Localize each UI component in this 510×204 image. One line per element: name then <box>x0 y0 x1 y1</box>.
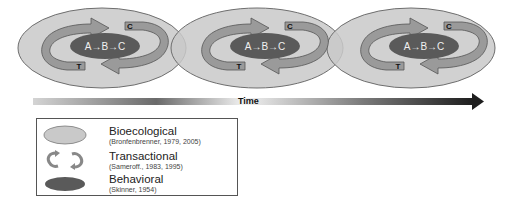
legend-title: Bioecological <box>109 125 201 137</box>
behavior-label: A→B→C <box>245 41 286 52</box>
ecological-diagram: A→B→C C T A→B→C C T A→B→C C T <box>0 0 510 110</box>
circular-arrows-icon <box>43 150 87 170</box>
legend-item-behavioral: Behavioral (Skinner, 1954) <box>37 173 237 197</box>
legend: Bioecological (Bronfenbrenner, 1979, 200… <box>36 118 238 196</box>
tag-c: C <box>446 22 452 31</box>
tag-c: C <box>287 22 293 31</box>
behavior-label: A→B→C <box>404 41 445 52</box>
legend-citation: (Sameroff., 1983, 1995) <box>109 162 183 171</box>
tag-c: C <box>127 22 133 31</box>
light-gray-ellipse-icon <box>43 125 87 145</box>
behavior-label: A→B→C <box>85 41 126 52</box>
legend-citation: (Bronfenbrenner, 1979, 2005) <box>109 137 201 146</box>
time-axis-label: Time <box>238 96 259 106</box>
legend-title: Behavioral <box>109 173 163 185</box>
tag-t: T <box>396 62 401 71</box>
arrowhead-icon <box>472 93 484 110</box>
tag-t: T <box>237 62 242 71</box>
legend-title: Transactional <box>109 150 183 162</box>
dark-gray-ellipse-icon <box>43 174 87 194</box>
legend-citation: (Skinner, 1954) <box>109 185 163 194</box>
legend-item-bioecological: Bioecological (Bronfenbrenner, 1979, 200… <box>37 125 237 149</box>
tag-t: T <box>77 62 82 71</box>
legend-item-transactional: Transactional (Sameroff., 1983, 1995) <box>37 150 237 174</box>
